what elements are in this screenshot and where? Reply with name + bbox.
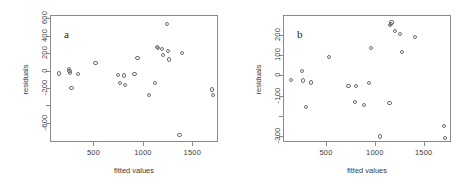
data-point [387,101,391,105]
data-point [68,71,72,75]
data-point [161,53,165,57]
data-point [93,61,97,65]
y-tick-label: 100 [273,45,282,65]
y-tick-label: -300 [273,125,282,145]
data-point [413,35,417,39]
data-point [353,100,357,104]
plot-area-b [284,16,450,141]
data-point [398,32,402,36]
x-tick [375,142,376,146]
x-tick-label: 1500 [184,148,202,157]
x-tick [143,142,144,146]
x-tick [192,142,193,146]
data-point [147,93,151,97]
data-point [354,84,358,88]
x-tick [326,142,327,146]
panel-label-a: a [64,28,69,40]
data-point [210,87,214,91]
panel-a: a 50010001500 6004002000-200-600 fitted … [0,0,233,185]
y-axis-title-b: residuals [254,50,263,110]
y-tick-label: 0 [273,65,282,85]
data-point [177,133,181,137]
data-point [123,83,127,87]
data-point [327,55,331,59]
data-point [167,57,171,61]
x-tick-label: 1500 [415,148,433,157]
plot-frame-a [50,15,218,142]
data-point [165,22,169,26]
y-tick-label: -200 [40,78,49,98]
y-tick [46,105,50,106]
data-point [122,73,126,77]
data-point [400,50,404,54]
data-point [362,103,366,107]
x-tick [424,142,425,146]
data-point [304,105,308,109]
data-point [118,81,122,85]
data-point [378,134,382,138]
x-tick [93,142,94,146]
x-tick-label: 1000 [366,148,384,157]
data-point [132,72,136,76]
data-point [309,80,313,84]
y-tick-label: -600 [40,112,49,132]
data-point [389,20,393,24]
y-tick [279,116,283,117]
data-point [300,69,304,73]
plot-area-a [51,16,217,141]
data-point [76,72,80,76]
data-point [69,86,73,90]
data-point [211,93,215,97]
data-point [289,78,293,82]
panel-label-b: b [297,28,303,40]
x-tick-label: 1000 [134,148,152,157]
data-point [442,124,446,128]
data-point [369,46,373,50]
x-tick-label: 500 [319,148,332,157]
residual-plots-figure: a 50010001500 6004002000-200-600 fitted … [0,0,466,185]
data-point [160,47,164,51]
y-tick-label: 200 [273,25,282,45]
panel-b: b 50010001500 2001000-100-300 fitted val… [233,0,466,185]
data-point [443,136,447,140]
data-point [301,78,305,82]
data-point [166,49,170,53]
x-tick-label: 500 [87,148,100,157]
data-point [116,73,120,77]
data-point [346,84,350,88]
data-point [153,81,157,85]
x-axis-title-b: fitted values [347,166,387,175]
data-point [393,29,397,33]
data-point [367,81,371,85]
plot-frame-b [283,15,451,142]
y-axis-title-a: residuals [21,50,30,110]
data-point [57,71,61,75]
data-point [135,56,139,60]
x-axis-title-a: fitted values [114,166,154,175]
data-point [180,51,184,55]
y-tick-label: -100 [273,85,282,105]
